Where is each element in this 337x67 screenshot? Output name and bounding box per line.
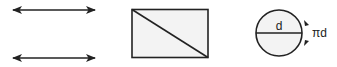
circle-figure: d πd <box>256 10 327 56</box>
circumference-arrow-up-icon <box>304 20 309 26</box>
diameter-label: d <box>276 19 283 33</box>
line-pair <box>13 10 95 58</box>
circumference-arrow-down-icon <box>304 40 309 46</box>
rectangle-figure <box>132 10 208 58</box>
circumference-label: πd <box>312 26 327 40</box>
geometry-diagram: d πd <box>0 0 337 67</box>
